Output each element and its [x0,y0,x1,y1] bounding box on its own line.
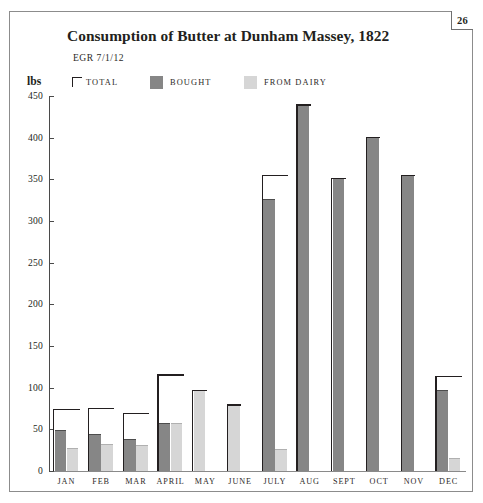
bar-bought [263,199,275,472]
bar-bought [298,104,310,471]
total-bracket-cap [435,376,462,377]
y-axis-line [49,96,50,471]
x-axis-label-dec: DEC [425,477,473,486]
chart-page: 26 Consumption of Butter at Dunham Masse… [0,0,483,503]
y-axis-tick-label: 250 [13,257,43,268]
total-bracket-stem [262,175,263,471]
total-bracket-cap [123,413,150,414]
bar-from-dairy [275,449,287,472]
plot-area: 450400350300250200150100500 JANFEBMARAPR… [10,12,474,493]
bar-bought [437,390,449,471]
total-bracket-stem [435,376,436,471]
y-axis-tick-label: 150 [13,340,43,351]
y-axis-tick-label: 200 [13,298,43,309]
y-axis-tick [49,138,54,139]
y-axis-tick [49,346,54,347]
y-axis-tick [49,263,54,264]
total-bracket-cap [192,390,207,391]
bar-bought [124,439,136,471]
total-bracket-cap [366,137,381,138]
bar-from-dairy [136,445,148,471]
bar-from-dairy [194,390,206,471]
y-axis-tick [49,388,54,389]
y-axis-tick [49,471,54,472]
y-axis-tick [49,179,54,180]
x-axis-line [49,471,466,472]
y-axis-tick-label: 300 [13,215,43,226]
total-bracket-cap [296,104,311,105]
total-bracket-stem [331,178,332,471]
y-axis-tick [49,221,54,222]
total-bracket-stem [296,104,297,471]
bar-bought [159,423,171,471]
bar-bought [333,178,345,471]
y-axis-tick-label: 50 [13,423,43,434]
bar-bought [55,430,67,471]
y-axis-tick-label: 0 [13,465,43,476]
total-bracket-cap [262,175,289,176]
total-bracket-stem [88,408,89,471]
bar-from-dairy [67,448,79,471]
chart-plate: 26 Consumption of Butter at Dunham Masse… [9,11,473,492]
total-bracket-stem [123,413,124,471]
total-bracket-stem [157,374,158,471]
y-axis-tick-label: 350 [13,173,43,184]
bar-from-dairy [449,458,461,471]
total-bracket-cap [227,404,242,405]
total-bracket-cap [53,409,80,410]
total-bracket-stem [192,390,193,471]
bar-from-dairy [101,444,113,471]
y-axis-tick-label: 100 [13,382,43,393]
total-bracket-cap [88,408,115,409]
bar-bought [402,175,414,471]
y-axis-tick [49,96,54,97]
bar-from-dairy [171,423,183,471]
bar-bought [367,137,379,471]
bar-from-dairy [228,404,240,471]
total-bracket-stem [227,404,228,471]
total-bracket-stem [401,175,402,471]
y-axis-tick [49,304,54,305]
y-axis-tick-label: 450 [13,90,43,101]
total-bracket-stem [366,137,367,471]
total-bracket-stem [53,409,54,472]
total-bracket-cap [331,178,346,179]
y-axis-tick-label: 400 [13,132,43,143]
total-bracket-cap [401,175,416,176]
total-bracket-cap [157,374,184,375]
bar-bought [89,434,101,471]
